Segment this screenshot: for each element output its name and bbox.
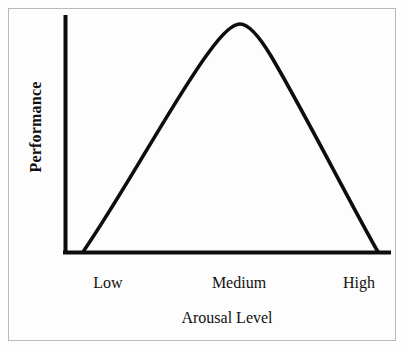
x-tick-label-medium: Medium <box>196 272 282 294</box>
chart-screenshot: Performance Low Medium High Arousal Leve… <box>0 0 407 351</box>
x-axis-label: Arousal Level <box>63 306 391 330</box>
performance-curve <box>83 24 378 252</box>
y-axis-label: Performance <box>24 62 48 192</box>
inverted-u-curve-svg <box>0 0 407 351</box>
x-tick-label-high: High <box>325 272 393 294</box>
x-tick-label-low: Low <box>73 272 143 294</box>
plot-area <box>0 0 407 351</box>
